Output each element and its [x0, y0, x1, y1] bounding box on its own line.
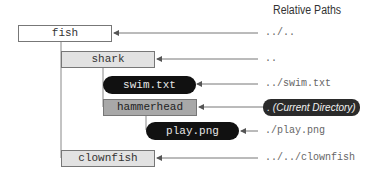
path-label-current-directory: . (Current Directory) — [263, 99, 360, 116]
path-label-play-png: ./play.png — [265, 125, 325, 137]
path-label-shark: .. — [265, 53, 277, 65]
path-label-clownfish: ../../clownfish — [265, 152, 355, 164]
node-hammerhead: hammerhead — [103, 99, 197, 116]
path-label-fish: ../.. — [265, 27, 295, 39]
path-label-swim-txt: ../swim.txt — [265, 78, 331, 90]
node-shark: shark — [61, 51, 155, 68]
node-fish: fish — [18, 25, 112, 42]
node-play-png: play.png — [146, 122, 239, 140]
diagram-title: Relative Paths — [273, 3, 341, 17]
node-clownfish: clownfish — [61, 150, 155, 167]
node-swim-txt: swim.txt — [103, 76, 196, 94]
